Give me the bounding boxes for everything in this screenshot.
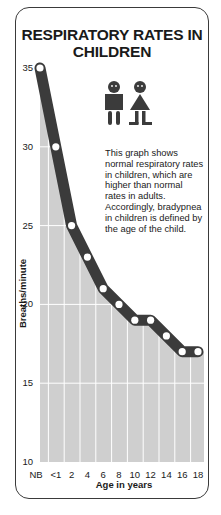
data-point xyxy=(131,317,138,324)
y-tick-label: 35 xyxy=(22,62,33,73)
respiratory-rate-chart: 101520253035 NB<124681012141618 xyxy=(0,0,221,515)
data-point xyxy=(68,222,75,229)
data-point xyxy=(36,64,43,71)
chart-description: This graph shows normal respiratory rate… xyxy=(105,148,205,234)
x-axis-label: Age in years xyxy=(15,479,209,490)
data-point xyxy=(163,332,170,339)
y-tick-label: 15 xyxy=(22,377,33,388)
y-axis-label: Breaths/minute xyxy=(17,254,28,334)
data-point xyxy=(115,301,122,308)
data-point xyxy=(179,348,186,355)
data-point xyxy=(84,254,91,261)
data-point xyxy=(100,285,107,292)
y-tick-label: 10 xyxy=(22,456,33,467)
data-point xyxy=(52,143,59,150)
y-tick-label: 25 xyxy=(22,220,33,231)
data-point xyxy=(147,317,154,324)
data-point xyxy=(194,348,201,355)
y-tick-label: 30 xyxy=(22,141,33,152)
